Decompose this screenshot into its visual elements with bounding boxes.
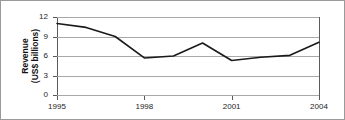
x-tick-1998 xyxy=(144,96,145,100)
plot-area xyxy=(57,17,319,95)
revenue-line-chart: Revenue (US$ billions) 036912 1995199820… xyxy=(0,0,345,120)
y-tick-label-9: 9 xyxy=(44,33,48,41)
series-polyline xyxy=(57,24,319,61)
x-tick-1995 xyxy=(57,96,58,100)
y-tick-label-12: 12 xyxy=(39,13,48,21)
y-axis-title-line-1: Revenue xyxy=(20,29,30,83)
y-tick-label-3: 3 xyxy=(44,72,48,80)
right-axis-line xyxy=(319,17,320,96)
y-tick-label-0: 0 xyxy=(44,91,48,99)
x-tick-label-2001: 2001 xyxy=(223,102,241,111)
gridline-y-0 xyxy=(57,95,319,96)
x-tick-2001 xyxy=(232,96,233,100)
x-tick-label-1998: 1998 xyxy=(135,102,153,111)
revenue-series-line xyxy=(57,17,319,95)
x-tick-label-1995: 1995 xyxy=(48,102,66,111)
y-tick-label-6: 6 xyxy=(44,52,48,60)
y-axis-title-line-2: (US$ billions) xyxy=(30,29,40,83)
x-tick-label-2004: 2004 xyxy=(310,102,328,111)
x-tick-2004 xyxy=(319,96,320,100)
